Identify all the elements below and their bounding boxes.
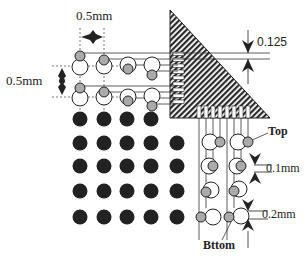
vertical-pitch-label: 0.5mm [6,73,42,89]
offset-bottom-label: 0.2mm [262,207,296,222]
right-via-columns [196,134,253,225]
spacing-dimension-0-125 [242,30,254,84]
offset-top-label: 0.1mm [266,161,300,176]
solid-ball-grid [73,112,185,225]
top-leader-line [252,133,268,140]
top-via-rows [72,51,160,111]
trace-spacing-label: 0.125 [257,35,287,49]
diagram-canvas: 0.5mm 0.5mm 0.125 Top 0.1mm 0.2mm Bttom [0,0,307,259]
top-label: Top [268,124,288,139]
horizontal-pitch-label: 0.5mm [76,8,112,24]
hatched-triangle-region [170,10,270,118]
bottom-label: Bttom [203,238,235,253]
